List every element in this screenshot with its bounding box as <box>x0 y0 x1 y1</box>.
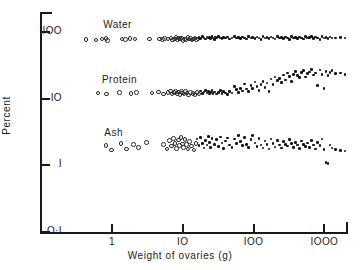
x-tick-label: IO <box>163 236 203 247</box>
data-point-filled-ash <box>228 144 231 147</box>
data-point-filled-water <box>302 38 305 41</box>
data-point-filled-protein <box>201 92 204 95</box>
data-point-filled-ash <box>239 140 242 143</box>
data-point-filled-protein <box>327 74 330 77</box>
data-point-filled-protein <box>226 93 229 96</box>
data-point-filled-protein <box>233 85 236 88</box>
data-point-filled-protein <box>203 91 206 94</box>
data-point-filled-ash <box>270 138 273 141</box>
data-point-filled-protein <box>334 72 337 75</box>
data-point-filled-protein <box>270 78 273 81</box>
y-axis-line <box>40 12 42 234</box>
data-point-open-water <box>178 37 183 42</box>
x-tick-mark <box>111 224 113 232</box>
data-point-filled-ash <box>208 141 211 144</box>
data-point-filled-ash <box>331 147 334 150</box>
data-point-filled-ash <box>312 144 315 147</box>
data-point-filled-water <box>208 36 211 39</box>
data-point-open-protein <box>175 91 180 96</box>
data-point-open-ash <box>109 148 114 153</box>
data-point-filled-water <box>331 37 334 40</box>
data-point-filled-water <box>228 38 231 41</box>
data-point-filled-ash <box>219 136 222 139</box>
x-tick-mark <box>182 224 184 232</box>
data-point-open-water <box>169 36 174 41</box>
data-point-filled-ash <box>262 147 265 150</box>
data-point-filled-water <box>224 37 227 40</box>
data-point-open-water <box>166 37 171 42</box>
data-point-filled-water <box>286 37 289 40</box>
data-point-open-water <box>177 36 182 41</box>
data-point-filled-water <box>272 37 275 40</box>
data-point-open-water <box>157 37 162 42</box>
data-point-filled-ash <box>323 148 326 151</box>
data-point-filled-water <box>207 37 210 40</box>
data-point-filled-water <box>274 38 277 41</box>
data-point-filled-water <box>268 37 271 40</box>
data-point-filled-water <box>290 35 293 38</box>
data-point-filled-ash <box>296 144 299 147</box>
data-point-filled-water <box>262 35 265 38</box>
data-point-filled-ash <box>290 142 293 145</box>
data-point-filled-ash <box>284 143 287 146</box>
data-point-open-ash <box>171 136 176 141</box>
data-point-open-water <box>120 37 125 42</box>
data-point-filled-protein <box>274 76 277 79</box>
data-point-filled-water <box>258 37 261 40</box>
data-point-filled-protein <box>266 82 269 85</box>
data-point-open-water <box>194 37 199 42</box>
data-point-filled-ash <box>258 137 261 140</box>
data-point-filled-protein <box>215 93 218 96</box>
data-point-filled-water <box>209 37 212 40</box>
data-point-filled-ash <box>274 146 277 149</box>
data-point-filled-ash <box>266 143 269 146</box>
data-point-filled-water <box>327 37 330 40</box>
data-point-filled-ash <box>213 143 216 146</box>
x-tick-label: IOOO <box>304 236 344 247</box>
data-point-filled-water <box>319 38 322 41</box>
data-point-open-protein <box>179 89 184 94</box>
data-point-filled-protein <box>268 90 271 93</box>
data-point-open-ash <box>136 145 141 150</box>
data-point-open-water <box>133 37 138 42</box>
data-point-filled-ash <box>241 144 244 147</box>
data-point-filled-protein <box>250 84 253 87</box>
data-point-open-water <box>175 37 180 42</box>
data-point-filled-protein <box>323 87 326 90</box>
data-point-filled-protein <box>212 92 215 95</box>
data-point-filled-water <box>310 35 313 38</box>
x-axis-end-cap <box>346 222 348 234</box>
data-point-filled-protein <box>254 81 257 84</box>
data-point-filled-protein <box>262 80 265 83</box>
data-point-filled-protein <box>278 77 281 80</box>
y-axis-top-cap <box>40 12 52 14</box>
data-point-open-protein <box>96 91 101 96</box>
data-point-filled-ash <box>222 147 225 150</box>
data-point-filled-ash <box>268 148 271 151</box>
data-point-filled-protein <box>209 91 212 94</box>
data-point-filled-protein <box>251 87 254 90</box>
data-point-filled-ash <box>310 139 313 142</box>
data-point-filled-protein <box>239 87 242 90</box>
data-point-open-protein <box>170 92 175 97</box>
data-point-open-ash <box>131 142 136 147</box>
data-point-filled-water <box>282 37 285 40</box>
data-point-filled-protein <box>294 70 297 73</box>
data-point-filled-protein <box>280 81 283 84</box>
data-point-filled-ash <box>237 134 240 137</box>
data-point-filled-water <box>213 38 216 41</box>
data-point-filled-water <box>199 37 202 40</box>
data-point-filled-protein <box>310 68 313 71</box>
data-point-open-ash <box>180 142 185 147</box>
data-point-open-ash <box>169 144 174 149</box>
data-point-filled-ash <box>251 134 254 137</box>
data-point-filled-ash <box>325 161 328 164</box>
data-point-filled-ash <box>327 162 330 165</box>
data-point-filled-ash <box>344 150 347 153</box>
data-point-filled-ash <box>292 146 295 149</box>
data-point-filled-water <box>280 36 283 39</box>
data-point-filled-protein <box>344 73 347 76</box>
data-point-filled-protein <box>296 74 299 77</box>
data-point-filled-protein <box>288 75 291 78</box>
data-point-filled-water <box>321 35 324 38</box>
